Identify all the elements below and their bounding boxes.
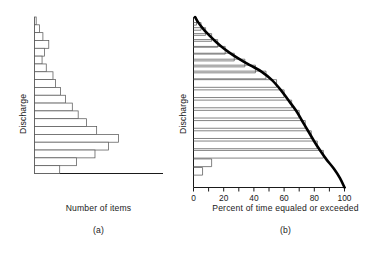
x-tick-label: 20 (209, 193, 239, 203)
histogram-bar (35, 17, 37, 25)
x-tick-label: 80 (299, 193, 329, 203)
histogram-bar (35, 166, 60, 174)
histogram-bar (35, 56, 43, 64)
panel-b-step-bars (194, 17, 324, 175)
histogram-bar (35, 111, 79, 119)
panel-b-y-axis-label: Discharge (178, 94, 188, 134)
cumulative-step-bar (194, 141, 318, 149)
histogram-bar (35, 127, 97, 135)
cumulative-step-bar (194, 167, 203, 175)
panel-b-plot (194, 17, 347, 192)
flow-duration-curve (195, 17, 344, 188)
histogram-bar (35, 72, 53, 80)
cumulative-step-bar (194, 65, 256, 73)
cumulative-step-bar (194, 100, 292, 108)
histogram-bar (35, 80, 56, 88)
histogram-bar (35, 33, 43, 41)
cumulative-step-bar (194, 90, 285, 98)
histogram-bar (35, 158, 77, 166)
panel-a-bars (35, 17, 119, 174)
histogram-bar (35, 25, 40, 33)
x-tick-label: 40 (239, 193, 269, 203)
panel-a-plot (35, 17, 164, 174)
cumulative-step-bar (194, 131, 312, 139)
panel-b-x-ticks (194, 188, 345, 192)
histogram-bar (35, 103, 73, 111)
histogram-bar (35, 95, 66, 103)
cumulative-step-bar (194, 59, 245, 67)
histogram-bar (35, 150, 95, 158)
panel-a-y-axis-label: Discharge (18, 94, 28, 134)
cumulative-step-bar (194, 150, 324, 158)
figure-svg (0, 0, 383, 255)
cumulative-step-bar (194, 121, 306, 129)
histogram-bar (35, 48, 45, 56)
panel-a-id-label: (a) (0, 225, 197, 235)
panel-a-x-axis-label: Number of items (0, 203, 197, 213)
histogram-bar (35, 64, 47, 72)
figure-container: Discharge Number of items (a) Discharge … (0, 0, 383, 255)
histogram-bar (35, 119, 87, 127)
x-tick-label: 100 (330, 193, 360, 203)
cumulative-step-bar (194, 159, 212, 167)
panel-b-x-axis-label: Percent of time equaled or exceeded (188, 203, 383, 213)
cumulative-step-bar (194, 80, 277, 88)
histogram-bar (35, 40, 49, 48)
histogram-bar (35, 134, 119, 142)
panel-b-id-label: (b) (188, 225, 383, 235)
cumulative-step-bar (194, 110, 300, 118)
histogram-bar (35, 142, 109, 150)
histogram-bar (35, 87, 61, 95)
x-tick-label: 60 (269, 193, 299, 203)
x-tick-label: 0 (179, 193, 209, 203)
